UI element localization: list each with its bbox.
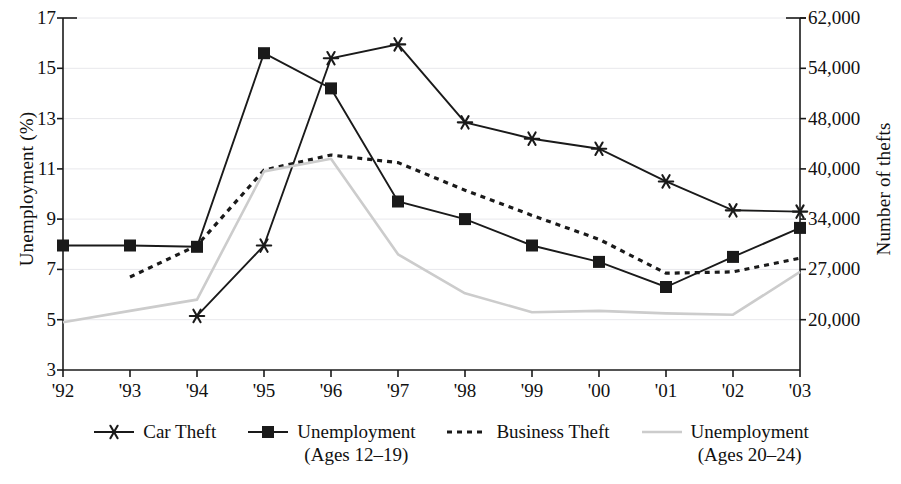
car-theft-marker — [107, 426, 121, 438]
unemployment-12-19-marker — [593, 256, 605, 268]
legend-label-line1: Unemployment — [691, 420, 809, 443]
chart-legend: Car TheftUnemployment(Ages 12–19)Busines… — [0, 420, 901, 484]
unemployment-12-19-marker — [57, 240, 69, 252]
series-3 — [63, 159, 800, 322]
star-marker-line-swatch — [92, 421, 136, 443]
legend-label-line2: (Ages 12–19) — [297, 443, 415, 466]
legend-label: Business Theft — [496, 420, 609, 443]
square-marker-line-swatch — [246, 421, 290, 443]
chart-figure: Unemployment (%) Number of thefts 171513… — [0, 0, 901, 484]
unemployment-12-19-marker — [727, 251, 739, 263]
dashed-line-swatch — [445, 421, 489, 443]
series-line — [197, 44, 800, 316]
car-theft-marker — [391, 38, 405, 50]
gray-line-swatch — [640, 421, 684, 443]
legend-label: Unemployment(Ages 20–24) — [691, 420, 809, 466]
legend-item-2[interactable]: Business Theft — [445, 420, 609, 443]
legend-item-1[interactable]: Unemployment(Ages 12–19) — [246, 420, 415, 466]
unemployment-12-19-marker — [794, 222, 806, 234]
legend-item-3[interactable]: Unemployment(Ages 20–24) — [640, 420, 809, 466]
unemployment-12-19-marker — [392, 196, 404, 208]
unemployment-12-19-marker — [660, 281, 672, 293]
car-theft-marker — [726, 204, 740, 216]
car-theft-marker — [525, 132, 539, 144]
legend-label-line1: Car Theft — [143, 420, 216, 443]
car-theft-marker — [458, 116, 472, 128]
car-theft-marker — [324, 52, 338, 64]
legend-label: Unemployment(Ages 12–19) — [297, 420, 415, 466]
unemployment-12-19-marker — [124, 240, 136, 252]
series-line — [63, 53, 800, 287]
axis-tickmarks — [57, 18, 806, 377]
series-line — [63, 159, 800, 322]
legend-item-0[interactable]: Car Theft — [92, 420, 216, 443]
car-theft-marker — [659, 175, 673, 187]
legend-label-line1: Unemployment — [297, 420, 415, 443]
unemployment-12-19-marker — [325, 82, 337, 94]
unemployment-12-19-marker — [258, 47, 270, 59]
legend-label-line1: Business Theft — [496, 420, 609, 443]
plot-area — [0, 0, 901, 484]
unemployment-12-19-marker — [459, 213, 471, 225]
data-series-layer — [57, 38, 807, 322]
legend-label: Car Theft — [143, 420, 216, 443]
series-0 — [190, 38, 807, 322]
car-theft-marker — [592, 143, 606, 155]
unemployment-12-19-marker — [526, 240, 538, 252]
axis-frame — [63, 18, 800, 370]
legend-label-line2: (Ages 20–24) — [691, 443, 809, 466]
